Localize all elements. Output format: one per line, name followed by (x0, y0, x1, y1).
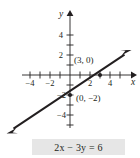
equation-caption-text: 2x − 3y = 6 (54, 142, 102, 153)
line-arrowhead-upper-right (120, 50, 132, 55)
point-label-y-intercept: (0, −2) (76, 93, 101, 103)
y-tick-label--4: −4 (57, 110, 67, 120)
point-label-x-intercept: (3, 0) (74, 55, 94, 65)
point-marker-y-intercept (68, 93, 72, 97)
x-tick-label--4: −4 (25, 78, 35, 88)
point-marker-x-intercept (98, 73, 102, 77)
plotted-line (14, 55, 125, 129)
y-tick-label-2: 2 (59, 50, 63, 60)
y-axis-label: y (58, 9, 64, 19)
x-tick-label-4: 4 (108, 78, 113, 88)
coordinate-graph: −4 −2 2 4 4 2 −2 −4 y x (3, 0) (0, −2) (0, 0, 140, 158)
x-tick-label--2: −2 (45, 78, 54, 88)
x-axis-label: x (130, 77, 136, 87)
line-arrowhead-lower-left (7, 128, 19, 133)
y-tick-label-4: 4 (59, 30, 64, 40)
equation-caption-box: 2x − 3y = 6 (32, 139, 125, 155)
y-axis-arrowhead (67, 10, 74, 16)
